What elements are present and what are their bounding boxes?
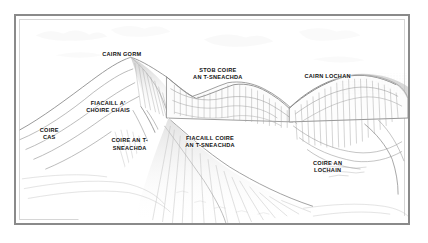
label-fiacaill-coire-an-t-sneachda: FIACAILL COIRE AN T-SNEACHDA: [185, 135, 235, 150]
illustration-page: CAIRN GORM STOB COIRE AN T-SNEACHDA CAIR…: [0, 0, 428, 243]
illustration-frame: CAIRN GORM STOB COIRE AN T-SNEACHDA CAIR…: [14, 14, 410, 225]
label-stob-coire-an-t-sneachda: STOB COIRE AN T-SNEACHDA: [193, 67, 243, 82]
coire-an-lochain-basin: [293, 120, 404, 195]
foreground-spur-shade: [135, 118, 319, 223]
label-coire-cas: COIRE CAS: [40, 127, 59, 142]
label-coire-an-t-sneachda: COIRE AN T- SNEACHDA: [111, 137, 147, 152]
sky-clouds: [36, 26, 365, 62]
label-fiacaill-a-choire-chais: FIACAILL A' CHOIRE CHAIS: [86, 100, 130, 115]
label-cairn-lochan: CAIRN LOCHAN: [305, 73, 351, 80]
panorama-svg: [16, 16, 408, 223]
label-coire-an-lochain: COIRE AN LOCHAIN: [313, 160, 342, 175]
label-cairn-gorm: CAIRN GORM: [102, 51, 141, 58]
panorama-drawing: [16, 16, 408, 223]
